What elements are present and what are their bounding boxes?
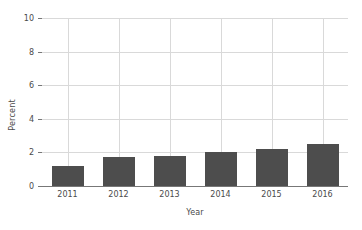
y-axis-tick-label: 4 xyxy=(4,114,34,123)
bar xyxy=(52,166,84,186)
x-axis-tick-label: 2014 xyxy=(210,190,230,199)
bar xyxy=(154,156,186,186)
x-axis-tick-label: 2013 xyxy=(159,190,179,199)
bar xyxy=(256,149,288,186)
gridline-horizontal xyxy=(42,18,348,19)
x-axis-title: Year xyxy=(42,208,348,217)
y-axis-tick-label: 2 xyxy=(4,148,34,157)
gridline-horizontal xyxy=(42,85,348,86)
bar-chart: Percent 0246810 201120122013201420152016… xyxy=(0,0,362,230)
x-axis-tick-label: 2012 xyxy=(108,190,128,199)
x-axis-line xyxy=(42,186,348,187)
bar xyxy=(205,152,237,186)
plot-area xyxy=(42,18,348,186)
x-axis-tick-label: 2015 xyxy=(261,190,281,199)
bar xyxy=(307,144,339,186)
y-axis-tick-label: 8 xyxy=(4,47,34,56)
x-axis-tick-label: 2011 xyxy=(57,190,77,199)
gridline-horizontal xyxy=(42,119,348,120)
gridline-horizontal xyxy=(42,152,348,153)
x-axis-tick-label: 2016 xyxy=(312,190,332,199)
y-axis-tick-label: 6 xyxy=(4,81,34,90)
y-axis-tick-label: 10 xyxy=(4,14,34,23)
y-axis-tick-label: 0 xyxy=(4,182,34,191)
gridline-horizontal xyxy=(42,52,348,53)
bar xyxy=(103,157,135,186)
gridline-vertical xyxy=(68,18,69,186)
